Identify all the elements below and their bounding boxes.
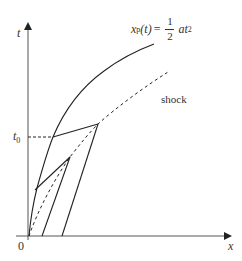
eq-frac-den: 2 bbox=[167, 31, 173, 43]
eq-lhs-arg: (t) bbox=[140, 22, 151, 37]
upper-characteristic-segment bbox=[53, 124, 98, 137]
diagram-canvas bbox=[0, 0, 242, 261]
eq-rhs-var: at bbox=[178, 22, 187, 37]
shock-label: shock bbox=[161, 94, 187, 105]
particle-path-equation: xp(t) = 1 2 at2 bbox=[131, 16, 192, 42]
eq-rhs-exp: 2 bbox=[188, 25, 192, 34]
eq-fraction: 1 2 bbox=[165, 16, 174, 42]
t-axis-label: t bbox=[17, 27, 20, 39]
spacetime-diagram: t x 0 t0 shock xp(t) = 1 2 at2 bbox=[0, 0, 242, 261]
origin-label: 0 bbox=[18, 240, 24, 252]
shock-curve bbox=[29, 72, 168, 236]
eq-frac-num: 1 bbox=[167, 16, 173, 28]
eq-equals: = bbox=[154, 22, 161, 37]
x-axis-label: x bbox=[228, 240, 233, 252]
t0-label: t0 bbox=[13, 130, 20, 145]
t0-label-sub: 0 bbox=[16, 136, 20, 145]
particle-path-curve bbox=[29, 44, 154, 236]
upper-characteristic-line bbox=[62, 124, 98, 236]
